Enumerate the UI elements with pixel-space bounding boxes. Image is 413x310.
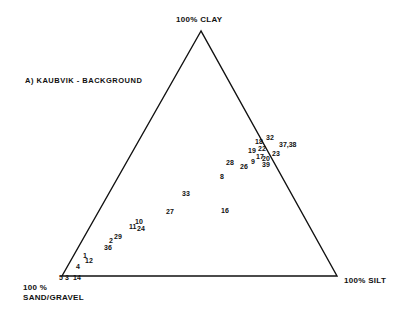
ternary-triangle (62, 31, 337, 276)
sample-point-label: 9 (251, 158, 255, 165)
sample-point-label: 2 (109, 237, 113, 244)
sample-point-label: 19 (248, 147, 256, 154)
sample-point-label: 28 (226, 159, 234, 166)
sample-point-label: 26 (240, 163, 248, 170)
ternary-diagram: 100% CLAY A) KAUBVIK - BACKGROUND 100% S… (0, 0, 413, 310)
apex-label-silt: 100% SILT (344, 276, 386, 285)
sample-point-label: 5 (59, 274, 63, 281)
sample-point-label: 3 (65, 274, 69, 281)
sample-point-label: 37,38 (279, 141, 297, 149)
sample-point-label: 11 (129, 223, 137, 230)
diagram-title: A) KAUBVIK - BACKGROUND (25, 76, 142, 85)
sample-points: 321837,381922231720399262883327161011242… (59, 134, 297, 281)
sample-point-label: 16 (221, 207, 229, 214)
sample-point-label: 14 (73, 274, 81, 281)
apex-label-sand-line2: SAND/GRAVEL (23, 293, 84, 302)
apex-label-clay: 100% CLAY (176, 15, 223, 24)
sample-point-label: 23 (272, 150, 280, 157)
sample-point-label: 18 (255, 138, 263, 145)
sample-point-label: 33 (182, 190, 190, 197)
sample-point-label: 29 (114, 233, 122, 240)
sample-point-label: 36 (104, 244, 112, 251)
sample-point-label: 4 (76, 263, 80, 270)
sample-point-label: 12 (85, 257, 93, 264)
sample-point-label: 24 (137, 225, 145, 232)
sample-point-label: 8 (220, 173, 224, 180)
sample-point-label: 32 (266, 134, 274, 141)
sample-point-label: 22 (258, 145, 266, 152)
sample-point-label: 39 (262, 161, 270, 168)
apex-label-sand-line1: 100 % (23, 283, 47, 292)
sample-point-label: 27 (166, 208, 174, 215)
